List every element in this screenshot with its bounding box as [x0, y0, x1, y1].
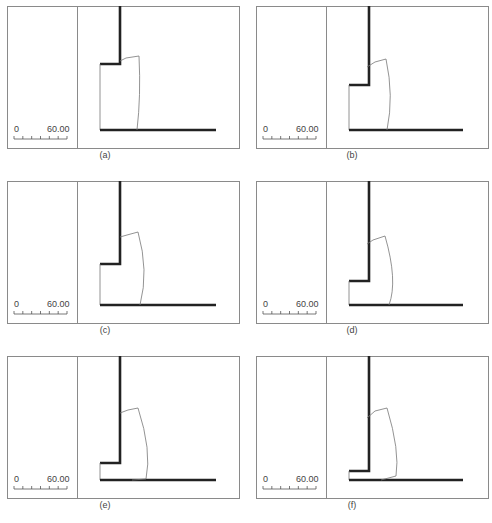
failure-wedge — [367, 408, 397, 480]
panel-caption-b: (b) — [332, 150, 372, 160]
panel-frame — [8, 357, 240, 499]
scale-bar — [263, 136, 316, 139]
retaining-wall — [349, 356, 369, 471]
scale-bar — [263, 311, 316, 314]
panel-drawing — [256, 356, 490, 500]
panel-caption-e: (e) — [85, 500, 125, 510]
panel-frame — [257, 357, 489, 499]
panel-frame — [257, 7, 489, 149]
scale-end-label: 60.00 — [296, 124, 319, 134]
panel-drawing — [256, 6, 490, 150]
scale-start-label: 0 — [14, 474, 19, 484]
panel-drawing — [7, 356, 241, 500]
scale-bar — [14, 136, 67, 139]
failure-wedge — [120, 56, 140, 130]
scale-start-label: 0 — [263, 299, 268, 309]
failure-wedge — [367, 236, 393, 305]
panel-drawing — [7, 181, 241, 325]
failure-wedge — [367, 59, 390, 130]
failure-wedge — [120, 408, 148, 480]
retaining-wall — [349, 181, 369, 281]
scale-start-label: 0 — [263, 474, 268, 484]
panel-frame — [8, 7, 240, 149]
panel-frame — [8, 182, 240, 324]
panel-caption-f: (f) — [332, 500, 372, 510]
scale-end-label: 60.00 — [296, 474, 319, 484]
panel-caption-a: (a) — [85, 150, 125, 160]
scale-end-label: 60.00 — [47, 124, 70, 134]
scale-bar — [263, 486, 316, 489]
panel-caption-c: (c) — [85, 325, 125, 335]
scale-start-label: 0 — [14, 299, 19, 309]
scale-bar — [14, 311, 67, 314]
retaining-wall — [349, 6, 369, 85]
panel-frame — [257, 182, 489, 324]
retaining-wall — [100, 181, 120, 264]
retaining-wall — [100, 356, 120, 463]
retaining-wall — [100, 6, 120, 64]
scale-end-label: 60.00 — [47, 474, 70, 484]
scale-bar — [14, 486, 67, 489]
scale-end-label: 60.00 — [47, 299, 70, 309]
panel-drawing — [7, 6, 241, 150]
panel-caption-d: (d) — [332, 325, 372, 335]
scale-start-label: 0 — [14, 124, 19, 134]
failure-wedge — [120, 232, 144, 305]
panel-drawing — [256, 181, 490, 325]
scale-end-label: 60.00 — [296, 299, 319, 309]
scale-start-label: 0 — [263, 124, 268, 134]
